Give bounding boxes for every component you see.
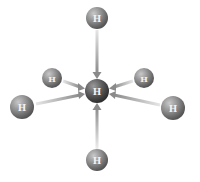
svg-text:H: H [169,104,178,114]
atom-top: H [86,7,108,29]
arrow-top [93,30,102,79]
svg-text:H: H [48,74,56,84]
svg-text:H: H [93,87,102,97]
arrow-lower-left [36,91,85,104]
svg-text:H: H [93,156,102,166]
svg-text:H: H [93,14,102,24]
atom-upper-right: H [134,68,154,88]
atom-lower-right: H [161,96,185,120]
arrow-upper-left [63,81,85,91]
hydrogen-interaction-diagram: H H H H H H H [0,0,200,182]
atom-bottom: H [86,149,108,171]
atom-center: H [85,79,109,103]
svg-text:H: H [140,74,148,84]
arrow-upper-right [109,81,133,91]
svg-text:H: H [18,103,27,113]
atom-upper-left: H [42,68,62,88]
atom-lower-left: H [10,95,34,119]
arrow-lower-right [109,91,160,105]
arrow-bottom [93,103,102,149]
